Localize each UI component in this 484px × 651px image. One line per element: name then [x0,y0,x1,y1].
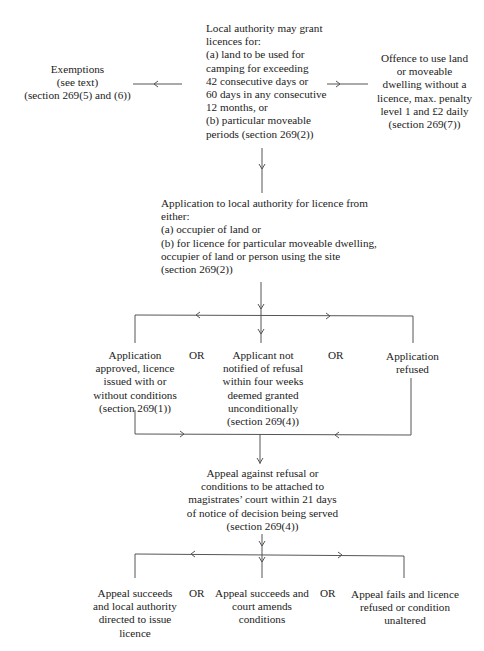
node-not-notified-deemed-granted: Applicant not notified of refusal within… [218,349,308,428]
node-appeal-magistrates-court: Appeal against refusal or conditions to … [185,467,340,533]
node-appeal-succeeds-amends-conditions: Appeal succeeds and court amends conditi… [213,587,311,627]
node-application-refused: Application refused [375,350,450,376]
node-offence: Offence to use land or moveable dwelling… [367,52,482,131]
or-label: OR [320,587,336,600]
or-label: OR [328,349,344,362]
or-label: OR [189,587,205,600]
or-label: OR [189,349,205,362]
node-exemptions: Exemptions (see text) (section 269(5) an… [20,63,135,103]
node-appeal-succeeds-issue-licence: Appeal succeeds and local authority dire… [90,587,180,640]
node-application-approved: Application approved, licence issued wit… [90,349,180,415]
node-local-authority-licences: Local authority may grant licences for: … [206,22,336,141]
node-application: Application to local authority for licen… [161,197,391,276]
node-appeal-fails: Appeal fails and licence refused or cond… [350,588,460,628]
